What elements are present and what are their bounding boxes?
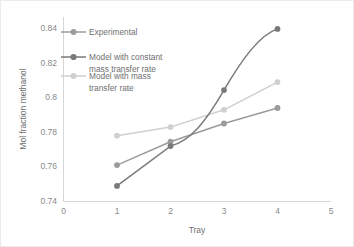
series-line bbox=[117, 108, 278, 165]
data-point bbox=[114, 162, 120, 168]
data-point bbox=[275, 26, 281, 32]
y-tick-label-0.74: 0.74 bbox=[40, 196, 57, 206]
y-tick-label-0.76: 0.76 bbox=[40, 161, 57, 171]
series-line bbox=[117, 82, 278, 136]
legend-swatch-marker bbox=[70, 54, 76, 60]
y-axis-title: Mol fraction methanol bbox=[18, 68, 28, 149]
y-tick-label-0.78: 0.78 bbox=[40, 127, 57, 137]
x-tick-label-5: 5 bbox=[329, 206, 334, 216]
data-point bbox=[114, 133, 120, 139]
x-tick-label-2: 2 bbox=[168, 206, 173, 216]
series-experimental bbox=[114, 105, 280, 168]
legend-item-model-mass-transfer-rate[interactable]: Model with mass transfer rate bbox=[61, 71, 151, 93]
data-point bbox=[221, 87, 227, 93]
line-chart: 0.84 0.82 0.8 0.78 0.76 0.74 0 1 2 3 4 5… bbox=[1, 1, 354, 247]
data-point bbox=[221, 121, 227, 127]
data-point bbox=[275, 105, 281, 111]
data-point bbox=[114, 183, 120, 189]
data-point bbox=[168, 124, 174, 130]
x-axis-title: Tray bbox=[189, 225, 206, 235]
data-point bbox=[168, 143, 174, 149]
legend-swatch-marker bbox=[71, 29, 77, 35]
data-point bbox=[275, 79, 281, 85]
y-tick-label-0.84: 0.84 bbox=[40, 23, 57, 33]
chart-figure: 0.84 0.82 0.8 0.78 0.76 0.74 0 1 2 3 4 5… bbox=[0, 0, 354, 247]
series-model-constant-mass-transfer-rate bbox=[114, 26, 280, 189]
y-tick-label-0.8: 0.8 bbox=[45, 92, 57, 102]
legend-label-model-mass-line1: Model with mass bbox=[89, 71, 151, 81]
data-point bbox=[221, 107, 227, 113]
x-tick-label-1: 1 bbox=[115, 206, 120, 216]
chart-legend: Experimental Model with constant mass tr… bbox=[61, 27, 163, 93]
x-tick-label-0: 0 bbox=[61, 206, 66, 216]
legend-label-model-constant-line1: Model with constant bbox=[89, 52, 163, 62]
x-tick-label-3: 3 bbox=[222, 206, 227, 216]
y-tick-label-0.82: 0.82 bbox=[40, 58, 57, 68]
legend-label-model-mass-line2: transfer rate bbox=[89, 83, 134, 93]
legend-item-experimental[interactable]: Experimental bbox=[61, 27, 138, 37]
legend-label-experimental: Experimental bbox=[89, 27, 138, 37]
legend-swatch-marker bbox=[71, 73, 77, 79]
x-tick-label-4: 4 bbox=[275, 206, 280, 216]
